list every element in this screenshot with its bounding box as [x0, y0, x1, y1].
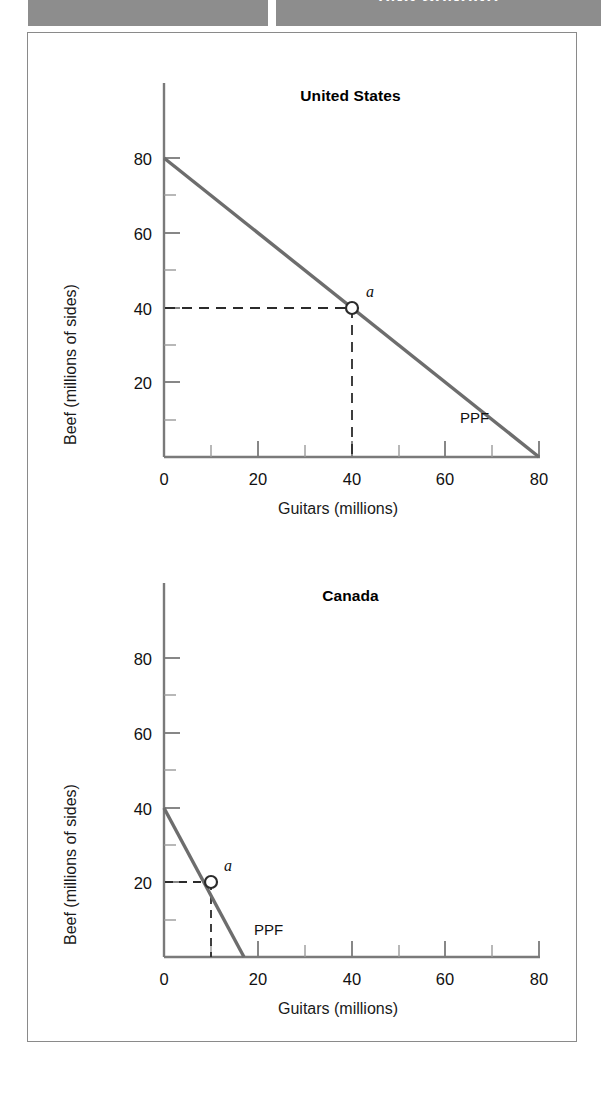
y-tick-label-60: 60: [134, 225, 152, 243]
page-header-band: AND CANADA: [0, 0, 601, 26]
data-point-a-marker: [205, 876, 217, 888]
y-tick-label-80: 80: [134, 150, 152, 168]
y-tick-label-60: 60: [134, 725, 152, 743]
y-tick-label-80: 80: [134, 650, 152, 668]
x-axis-title-canada: Guitars (millions): [28, 1000, 578, 1018]
y-tick-label-40: 40: [134, 800, 152, 818]
x-tick-label-40: 40: [343, 470, 361, 485]
data-point-a-marker: [346, 302, 358, 314]
figure-frame: United States Beef (millions of sides): [27, 32, 577, 1042]
chart-panel-united-states: United States Beef (millions of sides): [28, 45, 578, 535]
y-tick-label-40: 40: [134, 300, 152, 318]
y-tick-label-20: 20: [134, 874, 152, 892]
data-point-a-label: a: [366, 283, 374, 300]
data-point-a-label: a: [224, 857, 232, 874]
x-tick-label-20: 20: [249, 970, 267, 985]
x-tick-label-40: 40: [343, 970, 361, 985]
x-tick-label-0: 0: [159, 470, 168, 485]
header-block-left: [28, 0, 268, 26]
x-tick-label-20: 20: [249, 470, 267, 485]
chart-plot-united-states: 20 40 60 80 0 20 40 60 80 a PPF: [28, 45, 578, 485]
header-title-fragment: AND CANADA: [276, 0, 601, 1]
chart-panel-canada: Canada Beef (millions of sides): [28, 545, 578, 1035]
ppf-series-label: PPF: [254, 921, 283, 938]
x-tick-label-0: 0: [159, 970, 168, 985]
x-axis-title-united-states: Guitars (millions): [28, 500, 578, 518]
x-tick-label-60: 60: [436, 970, 454, 985]
x-tick-label-80: 80: [530, 470, 548, 485]
chart-plot-canada: 20 40 60 80 0 20 40 60 80 a PPF: [28, 545, 578, 985]
ppf-series-label: PPF: [460, 409, 489, 426]
x-tick-label-60: 60: [436, 470, 454, 485]
y-tick-label-20: 20: [134, 374, 152, 392]
header-block-right: [276, 0, 601, 26]
x-tick-label-80: 80: [530, 970, 548, 985]
